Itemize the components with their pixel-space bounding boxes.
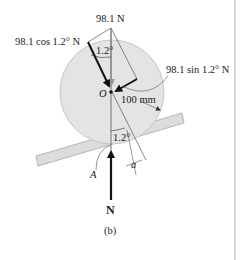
angle-top-label: 1.2° (96, 45, 113, 56)
offset-label: a (131, 159, 136, 170)
contact-arc (96, 145, 111, 170)
center-point (109, 90, 113, 94)
weight-label: 98.1 N (96, 13, 125, 24)
center-label: O (99, 88, 107, 99)
angle-bottom-label: 1.2° (113, 132, 130, 143)
free-body-diagram: 98.1 N 98.1 cos 1.2° N 98.1 sin 1.2° N 1… (0, 0, 242, 260)
cos-component-label: 98.1 cos 1.2° N (15, 36, 81, 47)
sin-component-label: 98.1 sin 1.2° N (166, 64, 230, 75)
normal-force-label: N (106, 203, 115, 217)
radius-label: 100 mm (121, 94, 156, 105)
figure-caption: (b) (104, 225, 117, 237)
contact-point-label: A (89, 169, 97, 180)
